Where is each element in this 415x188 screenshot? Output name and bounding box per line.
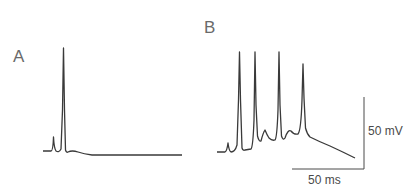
panel-a-trace xyxy=(43,48,182,155)
panel-b-trace xyxy=(217,52,355,158)
recordings-figure xyxy=(0,0,415,188)
voltage-scale-label: 50 mV xyxy=(368,124,403,138)
time-scale-label: 50 ms xyxy=(308,173,341,187)
